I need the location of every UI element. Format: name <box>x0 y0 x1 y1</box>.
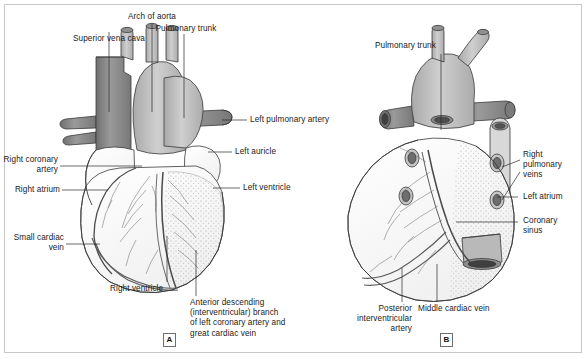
label-small-cardiac-vein: Small cardiac vein <box>6 233 64 253</box>
label-anterior-descending-branch: Anterior descending (interventricular) b… <box>190 298 286 339</box>
label-posterior-interventricular-artery: Posterior interventricular artery <box>340 304 412 335</box>
label-left-pulmonary-artery: Left pulmonary artery <box>250 115 329 125</box>
label-left-ventricle: Left ventricle <box>243 183 291 193</box>
label-pulmonary-trunk-a: Pulmonary trunk <box>140 24 232 34</box>
label-right-atrium: Right atrium <box>2 185 60 195</box>
heart-illustrations <box>0 0 588 359</box>
panel-tag-a: A <box>163 333 176 347</box>
label-right-pulmonary-veins: Right pulmonary veins <box>523 150 562 181</box>
label-middle-cardiac-vein: Middle cardiac vein <box>418 304 490 314</box>
label-arch-of-aorta: Arch of aorta <box>110 12 194 22</box>
label-pulmonary-trunk-b: Pulmonary trunk <box>375 41 436 51</box>
panel-tag-b: B <box>440 333 453 347</box>
label-coronary-sinus: Coronary sinus <box>523 216 557 236</box>
panel-b-artwork <box>348 25 515 301</box>
label-right-coronary-artery: Right coronary artery <box>2 155 58 175</box>
heart-anatomy-figure: Superior vena cava Arch of aorta Pulmona… <box>0 0 588 359</box>
label-left-atrium: Left atrium <box>523 192 563 202</box>
label-superior-vena-cava: Superior vena cava <box>44 34 174 44</box>
panel-a-artwork <box>60 23 232 292</box>
label-left-auricle: Left auricle <box>235 147 276 157</box>
label-right-ventricle: Right ventricle <box>110 284 163 294</box>
